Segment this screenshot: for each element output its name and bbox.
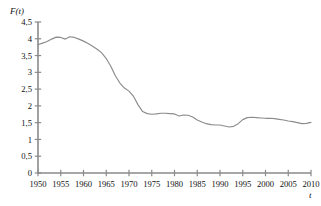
x-tick-label: 1960 [75,179,92,189]
x-tick-label: 2005 [280,179,297,189]
y-tick-label: 3 [28,67,32,77]
x-tick-label: 1955 [52,179,69,189]
y-tick-label: 1,5 [21,118,32,128]
y-tick-label: 3,5 [21,51,32,61]
y-tick-label: 0 [28,168,32,178]
chart-figure: 00,511,522,533,544,5 1950195519601965197… [0,0,321,206]
y-tick-label: 4 [28,34,33,44]
y-tick-label: 4,5 [21,17,32,27]
x-tick-label: 2000 [257,179,274,189]
y-tick-label: 0,5 [21,151,32,161]
y-tick-label: 1 [28,135,32,145]
x-axis-tick-labels: 1950195519601965197019751980198519901995… [29,179,319,189]
y-tick-label: 2,5 [21,84,32,94]
x-tick-label: 1965 [98,179,115,189]
x-tick-label: 1995 [234,179,251,189]
y-tick-label: 2 [28,101,32,111]
x-tick-label: 2010 [302,179,319,189]
x-tick-label: 1980 [166,179,183,189]
x-tick-label: 1990 [211,179,228,189]
y-axis-title: F(t) [9,6,24,16]
x-tick-label: 1975 [143,179,160,189]
line-chart: 00,511,522,533,544,5 1950195519601965197… [0,0,321,206]
x-tick-label: 1985 [189,179,206,189]
x-tick-label: 1950 [29,179,46,189]
y-axis-tick-labels: 00,511,522,533,544,5 [21,17,32,178]
x-axis-title: t [309,190,312,200]
x-tick-label: 1970 [120,179,137,189]
data-series-line [38,37,311,127]
